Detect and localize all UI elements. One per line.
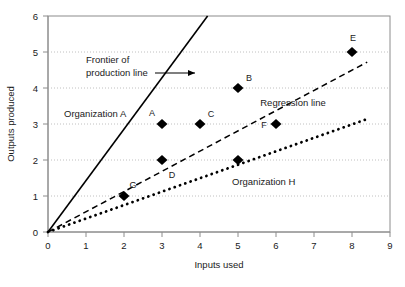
y-tick-label: 5	[33, 47, 38, 58]
x-axis-title: Inputs used	[194, 259, 243, 270]
x-tick-label: 0	[45, 240, 50, 251]
y-tick-label: 4	[33, 83, 38, 94]
y-tick-label: 2	[33, 155, 38, 166]
efficiency-scatter-chart: 6 5 4 3 2 1 0 0 1 2 3 4 5 6 7 8 9 Inputs…	[0, 0, 405, 287]
x-tick-label: 8	[349, 240, 354, 251]
x-tick-label: 5	[235, 240, 240, 251]
data-point-label-b: B	[246, 73, 252, 83]
y-tick-labels: 6 5 4 3 2 1 0	[33, 11, 38, 238]
data-point-label-a: A	[149, 108, 155, 118]
x-tick-label: 3	[159, 240, 164, 251]
y-tick-label: 1	[33, 191, 38, 202]
frontier-annotation-line2: production line	[86, 67, 148, 78]
x-tick-label: 9	[387, 240, 392, 251]
frontier-annotation-line1: Frontier of	[86, 54, 130, 65]
y-tick-label: 3	[33, 119, 38, 130]
x-tick-label: 6	[273, 240, 278, 251]
y-axis-title: Outputs produced	[5, 86, 16, 162]
x-tick-labels: 0 1 2 3 4 5 6 7 8 9	[45, 240, 392, 251]
x-tick-label: 7	[311, 240, 316, 251]
x-axis	[48, 232, 390, 237]
x-tick-label: 4	[197, 240, 202, 251]
data-point-label-g: G	[129, 180, 136, 190]
y-tick-label: 0	[33, 227, 38, 238]
organization-a-annotation: Organization A	[64, 108, 127, 119]
data-point-label-f: F	[261, 120, 267, 130]
x-tick-label: 2	[121, 240, 126, 251]
organization-h-annotation: Organization H	[232, 176, 296, 187]
data-point-label-e: E	[350, 33, 356, 43]
data-point-label-d: D	[169, 170, 176, 180]
regression-annotation: Regression line	[260, 97, 325, 108]
y-axis	[43, 16, 48, 232]
y-tick-label: 6	[33, 11, 38, 22]
chart-container: 6 5 4 3 2 1 0 0 1 2 3 4 5 6 7 8 9 Inputs…	[0, 0, 405, 287]
x-tick-label: 1	[83, 240, 88, 251]
data-point-label-c: C	[208, 109, 215, 119]
